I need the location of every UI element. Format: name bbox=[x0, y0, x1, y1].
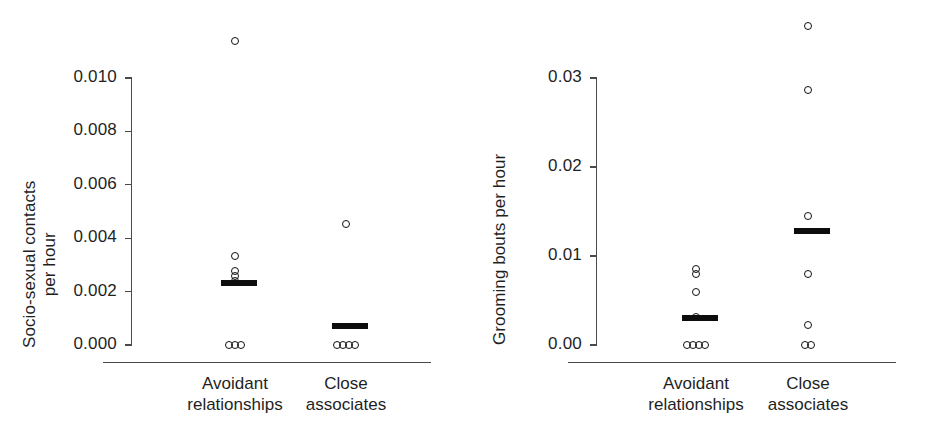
data-point bbox=[231, 37, 239, 45]
y-axis-tick-label: 0.006 bbox=[27, 174, 117, 194]
data-point bbox=[701, 341, 709, 349]
y-axis-tick-label: 0.01 bbox=[492, 245, 582, 265]
x-axis-line bbox=[103, 362, 431, 363]
x-category-label-close-right: Close associates bbox=[718, 374, 898, 415]
y-axis-tick bbox=[590, 255, 597, 256]
y-axis-tick bbox=[125, 77, 132, 78]
y-axis-line bbox=[131, 78, 132, 345]
panel-grooming-bouts: Grooming bouts per hour 0.000.010.020.03… bbox=[468, 0, 936, 446]
data-point bbox=[692, 288, 700, 296]
data-point bbox=[807, 341, 815, 349]
y-axis-tick bbox=[125, 238, 132, 239]
y-axis-tick-label: 0.02 bbox=[492, 156, 582, 176]
y-axis-tick bbox=[125, 291, 132, 292]
y-axis-title-left-line-2: per hour bbox=[40, 181, 60, 348]
y-axis-tick-label: 0.008 bbox=[27, 120, 117, 140]
data-point bbox=[804, 212, 812, 220]
y-axis-tick bbox=[125, 184, 132, 185]
y-axis-tick bbox=[125, 344, 132, 345]
y-axis-tick bbox=[590, 344, 597, 345]
mean-bar bbox=[794, 228, 830, 234]
y-axis-tick-label: 0.03 bbox=[492, 67, 582, 87]
cat-line: Close bbox=[718, 374, 898, 395]
x-category-label-close-left: Close associates bbox=[256, 374, 436, 415]
cat-line: Close bbox=[256, 374, 436, 395]
data-point bbox=[351, 341, 359, 349]
y-axis-tick-label: 0.002 bbox=[27, 281, 117, 301]
y-axis-title-left: Socio-sexual contacts per hour bbox=[20, 181, 60, 348]
data-point bbox=[237, 341, 245, 349]
y-axis-tick bbox=[590, 166, 597, 167]
data-point bbox=[692, 270, 700, 278]
plot-area-left: 0.0000.0020.0040.0060.0080.010 bbox=[131, 0, 431, 362]
data-point bbox=[804, 86, 812, 94]
y-axis-title-left-line-1: Socio-sexual contacts bbox=[20, 181, 40, 348]
mean-bar bbox=[221, 280, 257, 286]
data-point bbox=[804, 22, 812, 30]
x-axis-line bbox=[568, 362, 896, 363]
cat-line: associates bbox=[718, 395, 898, 416]
data-point bbox=[231, 252, 239, 260]
cat-line: associates bbox=[256, 395, 436, 416]
mean-bar bbox=[682, 315, 718, 321]
y-axis-tick-label: 0.000 bbox=[27, 334, 117, 354]
data-point bbox=[342, 220, 350, 228]
mean-bar bbox=[332, 323, 368, 329]
y-axis-tick-label: 0.00 bbox=[492, 334, 582, 354]
panel-socio-sexual-contacts: Socio-sexual contacts per hour 0.0000.00… bbox=[0, 0, 468, 446]
y-axis-tick-label: 0.010 bbox=[27, 67, 117, 87]
y-axis-line bbox=[596, 78, 597, 345]
plot-area-right: 0.000.010.020.03 bbox=[596, 0, 896, 362]
y-axis-tick bbox=[590, 77, 597, 78]
figure-canvas: Socio-sexual contacts per hour 0.0000.00… bbox=[0, 0, 936, 446]
data-point bbox=[804, 270, 812, 278]
y-axis-tick bbox=[125, 131, 132, 132]
data-point bbox=[804, 321, 812, 329]
y-axis-tick-label: 0.004 bbox=[27, 227, 117, 247]
